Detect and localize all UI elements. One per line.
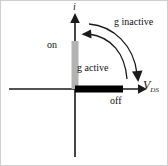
turn-off-arrowhead [132, 71, 143, 83]
x-axis-label: VDS [143, 79, 159, 94]
x-axis-label-subscript: DS [150, 86, 159, 94]
switching-trajectory-figure: i VDS on off g active g inactive [0, 0, 168, 166]
y-axis-label: i [73, 2, 76, 12]
off-state-label: off [110, 96, 121, 106]
gate-active-label: g active [77, 63, 108, 73]
off-state-bar [75, 86, 123, 93]
turn-on-arrowhead [82, 29, 92, 38]
gate-inactive-label: g inactive [114, 17, 153, 27]
y-axis-arrowhead [70, 13, 80, 23]
on-state-label: on [47, 40, 57, 50]
